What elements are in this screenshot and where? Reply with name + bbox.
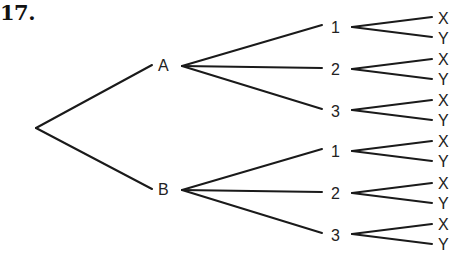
tree-diagram: A B 1 2 3 1 2 3 X Y X Y X Y X Y X Y X Y <box>0 0 472 268</box>
leaf-a2-x: X <box>438 51 449 68</box>
leaf-a2-y: Y <box>438 71 449 88</box>
leaf-b2-x: X <box>438 175 449 192</box>
edge-b-3 <box>182 190 322 233</box>
edge-a-3 <box>182 66 322 109</box>
node-b-3: 3 <box>331 227 340 244</box>
node-a: A <box>158 57 169 74</box>
leaf-b1-y: Y <box>438 153 449 170</box>
node-a-2: 2 <box>331 61 340 78</box>
edge-a-2 <box>182 66 322 68</box>
leaf-b1-x: X <box>438 133 449 150</box>
node-b: B <box>158 181 169 198</box>
leaf-b3-y: Y <box>438 236 449 253</box>
edge-root-b <box>36 128 152 189</box>
edge-a-1 <box>182 25 322 66</box>
edge-root-a <box>36 65 152 128</box>
edge-b-2 <box>182 190 322 192</box>
node-b-2: 2 <box>331 185 340 202</box>
leaf-a3-y: Y <box>438 112 449 129</box>
leaf-b2-y: Y <box>438 195 449 212</box>
leaf-a1-y: Y <box>438 30 449 47</box>
leaf-a3-x: X <box>438 92 449 109</box>
leaf-edges <box>352 17 432 244</box>
node-b-1: 1 <box>331 143 340 160</box>
node-a-1: 1 <box>331 19 340 36</box>
edge-b-1 <box>182 149 322 190</box>
node-a-3: 3 <box>331 103 340 120</box>
leaf-b3-x: X <box>438 216 449 233</box>
leaf-a1-x: X <box>438 10 449 27</box>
